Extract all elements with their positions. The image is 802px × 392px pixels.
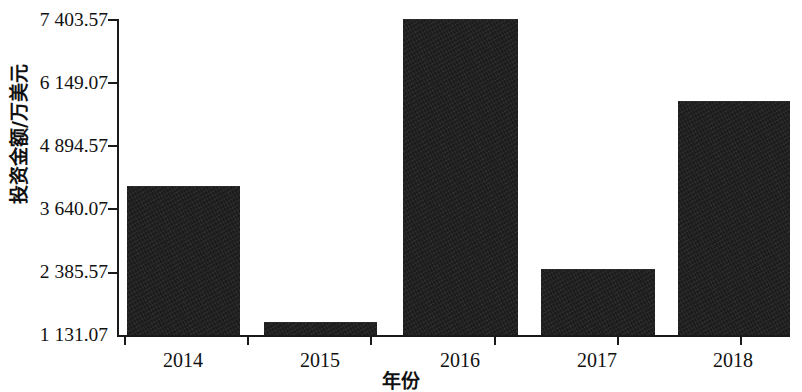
y-axis-tick-mark [108,145,118,147]
bar-2018 [678,101,790,336]
x-axis-tick-mark [124,337,126,345]
x-axis-title: 年份 [0,370,802,392]
y-axis-tick-label: 4 894.57 [0,136,108,156]
y-axis-tick-label: 3 640.07 [0,199,108,219]
y-axis-tick-mark [108,208,118,210]
bar-2014 [127,186,240,336]
x-axis-tick-label-2018: 2018 [663,348,802,372]
x-axis-tick-mark [617,337,619,345]
y-axis-tick-labels: 7 403.57 6 149.07 4 894.57 3 640.07 2 38… [0,0,108,392]
y-axis-tick-label: 1 131.07 [0,325,108,345]
y-axis-tick-mark [108,19,118,21]
x-axis-tick-label-2016: 2016 [390,348,530,372]
y-axis-tick-label: 6 149.07 [0,73,108,93]
bar-2017 [541,269,655,336]
x-axis-tick-mark [494,337,496,345]
x-axis-tick-label-2015: 2015 [250,348,390,372]
x-axis-line [117,335,790,337]
bar-2016 [403,19,518,336]
y-axis-line [117,19,119,337]
y-axis-tick-label: 7 403.57 [0,10,108,30]
x-axis-tick-mark [247,337,249,345]
y-axis-tick-label: 2 385.57 [0,262,108,282]
x-axis-tick-label-2014: 2014 [113,348,253,372]
bar-2015 [264,322,377,336]
x-axis-tick-mark [740,337,742,345]
x-axis-tick-label-2017: 2017 [527,348,667,372]
bar-chart: 投资金额/万美元 7 403.57 6 149.07 4 894.57 3 64… [0,0,802,392]
y-axis-tick-mark [108,272,118,274]
x-axis-tick-mark [370,337,372,345]
y-axis-tick-mark [108,82,118,84]
